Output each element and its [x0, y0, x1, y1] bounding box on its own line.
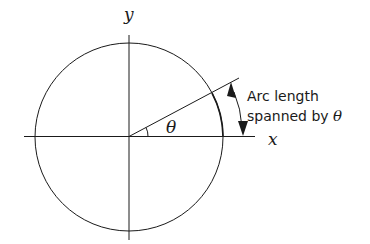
- annotation-line-1: Arc length: [247, 88, 319, 104]
- spanned-arc: [212, 93, 223, 137]
- arrowhead-up-icon: [227, 82, 236, 98]
- unit-circle-diagram: y x θ Arc length spanned by θ: [0, 0, 370, 244]
- annotation-line-2: spanned by θ: [247, 107, 342, 125]
- annotation-line-2-text: spanned by: [247, 108, 333, 124]
- theta-label: θ: [166, 117, 176, 137]
- x-axis-label: x: [268, 129, 278, 149]
- y-axis-label: y: [123, 4, 134, 24]
- annotation-theta: θ: [333, 107, 342, 125]
- angle-arc: [146, 128, 148, 137]
